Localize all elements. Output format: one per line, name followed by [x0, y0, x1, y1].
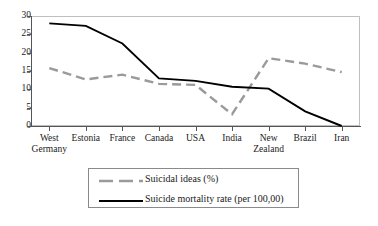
y-tick-mark — [27, 53, 32, 54]
y-tick-mark — [27, 89, 32, 90]
x-tick-label: Iran — [334, 133, 349, 144]
x-tick-mark — [196, 126, 197, 131]
x-tick-label: India — [222, 133, 242, 144]
x-tick-label: Estonia — [72, 133, 101, 144]
x-tick-mark — [159, 126, 160, 131]
dashed-gray-line-icon — [97, 173, 145, 185]
y-tick-mark — [27, 71, 32, 72]
x-tick-mark — [86, 126, 87, 131]
legend-label-suicide-mortality: Suicide mortality rate (per 100,00) — [145, 193, 284, 205]
x-tick-label: Brazil — [294, 133, 317, 144]
x-tick-label: USA — [186, 133, 205, 144]
y-tick-mark — [27, 16, 32, 17]
x-tick-mark — [49, 126, 50, 131]
x-tick-label: Canada — [145, 133, 174, 144]
x-tick-mark — [342, 126, 343, 131]
y-tick-mark — [27, 34, 32, 35]
solid-black-line-icon — [97, 193, 145, 205]
x-tick-label: France — [109, 133, 135, 144]
chart-legend: Suicidal ideas (%) Suicide mortality rat… — [88, 168, 299, 208]
y-tick-mark — [27, 126, 32, 127]
x-tick-mark — [269, 126, 270, 131]
x-tick-mark — [122, 126, 123, 131]
x-tick-mark — [232, 126, 233, 131]
x-tick-mark — [305, 126, 306, 131]
line-chart-figure: 302520151050 Suicidal ideas (%) Suicide … — [0, 0, 378, 226]
y-tick-mark — [27, 108, 32, 109]
legend-item-suicidal-ideas: Suicidal ideas (%) — [89, 169, 298, 189]
legend-label-suicidal-ideas: Suicidal ideas (%) — [145, 173, 218, 185]
plot-area-frame — [31, 16, 360, 126]
x-tick-label: NewZealand — [253, 133, 284, 155]
x-tick-label: WestGermany — [32, 133, 67, 155]
legend-item-suicide-mortality: Suicide mortality rate (per 100,00) — [89, 189, 298, 209]
